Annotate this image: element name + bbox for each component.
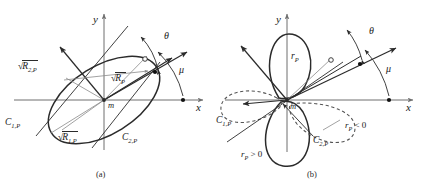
C1P-subscript: 1,P — [222, 120, 231, 127]
panel-b-graphic — [213, 0, 426, 191]
C2P-subscript: 2,P — [128, 137, 137, 144]
panel-b-direction-arrows — [241, 46, 396, 104]
panel-b-x-axis-label: x — [406, 102, 411, 113]
C2P-subscript: 2,P — [319, 140, 328, 147]
principal-axis-2-arrow — [60, 47, 104, 100]
origin-point-m — [102, 98, 106, 102]
panel-a-y-axis-label: y — [93, 14, 98, 25]
panel-b-label-C2P: C2,P — [313, 136, 328, 147]
mu-direction-arrow — [287, 48, 396, 100]
panel-a-graphic — [0, 0, 213, 191]
panel-a-origin-label: m — [108, 101, 114, 110]
x-axis-reference-point — [387, 98, 391, 102]
panel-b-label-theta: θ — [369, 26, 374, 36]
panel-a-label-C2P: C2,P — [122, 133, 137, 144]
curve-point-P — [329, 58, 334, 63]
mu-ray-point — [358, 62, 362, 66]
leader-R2P — [64, 71, 148, 80]
panel-a-label-sqrt-RP: √RP — [111, 72, 126, 85]
rP-positive-operator: > 0 — [248, 149, 262, 159]
panel-b-label-C1P: C1,P — [216, 116, 231, 127]
theta-arc — [347, 30, 362, 60]
panel-b-origin-label: m — [290, 102, 296, 111]
panel-b-caption: (b) — [307, 169, 317, 179]
panel-b-label-rP: rP — [291, 52, 299, 63]
rP-negative-operator: < 0 — [352, 120, 366, 130]
ellipse-point-P — [143, 57, 148, 62]
leader-negative-branch — [323, 120, 340, 130]
panel-b-angle-arcs — [347, 30, 389, 96]
panel-a-label-sqrt-R2P: √R2,P — [18, 60, 38, 73]
mu-ray-point — [153, 70, 157, 74]
panel-b-curvature-lines — [227, 62, 343, 142]
panel-b-point-markers — [285, 58, 391, 102]
panel-a-axes — [14, 14, 203, 150]
R1P-subscript: 1,P — [68, 137, 77, 144]
panel-a-label-sqrt-R1P: √R1,P — [58, 131, 78, 144]
leader-R2P-b — [66, 78, 104, 100]
panel-b-label-mu: μ — [386, 64, 391, 74]
RP-subscript: P — [121, 78, 125, 85]
panel-a: y x m √R2,P √RP √R1,P C1,P C2,P θ μ (a) — [0, 0, 213, 191]
panel-a-label-theta: θ — [164, 31, 169, 41]
panel-a-caption: (a) — [96, 169, 105, 179]
figure-container: y x m √R2,P √RP √R1,P C1,P C2,P θ μ (a) — [0, 0, 426, 191]
C1P-subscript: 1,P — [11, 122, 20, 129]
panel-b-label-rP-positive: rP > 0 — [241, 150, 262, 161]
panel-b: y x m rP C1,P C2,P rP > 0 rP < 0 θ μ (b) — [213, 0, 426, 191]
leader-R1P-b — [62, 100, 104, 130]
panel-b-label-rP-negative: rP < 0 — [345, 121, 366, 132]
leader-rP — [287, 59, 331, 100]
panel-a-label-mu: μ — [179, 65, 184, 75]
principal-axis-2-arrow — [241, 46, 287, 100]
panel-b-y-axis-label: y — [276, 14, 281, 25]
panel-a-x-axis-label: x — [196, 102, 201, 113]
rP-subscript: P — [295, 56, 299, 63]
curvature-line-1 — [227, 62, 343, 142]
R2P-subscript: 2,P — [28, 66, 37, 73]
panel-a-label-C1P: C1,P — [5, 118, 20, 129]
curvature-lines — [36, 26, 160, 148]
origin-point-m — [285, 98, 289, 102]
x-axis-reference-point — [181, 98, 185, 102]
leader-R1P — [51, 100, 104, 133]
